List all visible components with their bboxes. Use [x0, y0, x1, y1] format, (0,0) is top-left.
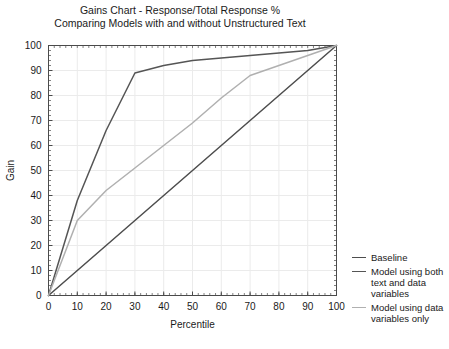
x-tick-label: 70 [245, 301, 257, 312]
x-tick-label: 90 [302, 301, 314, 312]
y-tick-label: 50 [30, 165, 42, 176]
y-tick-label: 40 [30, 190, 42, 201]
x-axis-title: Percentile [170, 319, 215, 330]
legend-item-baseline: Baseline [352, 252, 449, 263]
y-tick-label: 70 [30, 115, 42, 126]
x-axis-tick-labels: 0102030405060708090100 [46, 301, 346, 312]
y-tick-label: 30 [30, 215, 42, 226]
legend-label: Model using both text and data variables [371, 266, 449, 299]
legend-item-data-only-model: Model using data variables only [352, 302, 449, 324]
y-tick-label: 90 [30, 65, 42, 76]
y-tick-label: 20 [30, 240, 42, 251]
y-tick-label: 10 [30, 265, 42, 276]
y-tick-label: 100 [25, 40, 42, 51]
gains-chart: Gains Chart - Response/Total Response % … [0, 0, 449, 349]
x-tick-label: 80 [273, 301, 285, 312]
legend-line-icon [352, 302, 366, 313]
legend-line-icon [352, 266, 366, 277]
y-tick-label: 60 [30, 140, 42, 151]
x-tick-label: 10 [72, 301, 84, 312]
chart-legend: Baseline Model using both text and data … [352, 252, 449, 327]
x-tick-label: 30 [129, 301, 141, 312]
legend-item-text-and-data-model: Model using both text and data variables [352, 266, 449, 299]
y-axis-tick-labels: 0102030405060708090100 [25, 40, 42, 301]
y-axis-title: Gain [5, 160, 16, 181]
legend-label: Model using data variables only [371, 302, 449, 324]
y-tick-label: 80 [30, 90, 42, 101]
x-tick-label: 60 [216, 301, 228, 312]
x-tick-label: 40 [158, 301, 170, 312]
x-tick-label: 0 [46, 301, 52, 312]
legend-label: Baseline [371, 252, 407, 263]
x-tick-label: 50 [187, 301, 199, 312]
x-tick-label: 20 [101, 301, 113, 312]
x-tick-label: 100 [328, 301, 345, 312]
legend-line-icon [352, 252, 366, 263]
y-tick-label: 0 [36, 290, 42, 301]
